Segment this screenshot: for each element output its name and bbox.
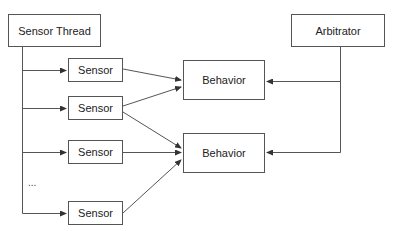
behavior-node-1: Behavior <box>183 60 265 100</box>
sensor-label: Sensor <box>78 64 113 76</box>
behavior-label: Behavior <box>202 147 245 159</box>
sensor-thread-label: Sensor Thread <box>18 25 91 37</box>
sensor-node-4: Sensor <box>68 201 123 225</box>
sensor-node-3: Sensor <box>68 140 123 164</box>
sensor-node-1: Sensor <box>68 58 123 82</box>
behavior-node-2: Behavior <box>183 133 265 173</box>
sensor-node-2: Sensor <box>68 96 123 120</box>
sensor-label: Sensor <box>78 102 113 114</box>
sensor-thread-node: Sensor Thread <box>8 14 101 47</box>
arbitrator-label: Arbitrator <box>315 25 360 37</box>
sensor-label: Sensor <box>78 207 113 219</box>
arbitrator-node: Arbitrator <box>291 14 385 47</box>
sensor-label: Sensor <box>78 146 113 158</box>
behavior-label: Behavior <box>202 74 245 86</box>
more-sensors-ellipsis: ... <box>28 177 36 188</box>
